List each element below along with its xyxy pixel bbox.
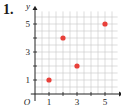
scatter-plot: 135135Oxy	[0, 0, 121, 108]
svg-text:5: 5	[26, 19, 31, 29]
data-point	[60, 35, 65, 40]
svg-text:5: 5	[103, 97, 108, 107]
data-point	[46, 77, 51, 82]
svg-text:1: 1	[47, 97, 52, 107]
data-point	[74, 63, 79, 68]
svg-text:3: 3	[26, 47, 31, 57]
svg-text:1: 1	[26, 75, 31, 85]
svg-text:O: O	[24, 97, 31, 107]
svg-text:3: 3	[75, 97, 80, 107]
svg-text:y: y	[25, 1, 30, 11]
data-point	[102, 21, 107, 26]
